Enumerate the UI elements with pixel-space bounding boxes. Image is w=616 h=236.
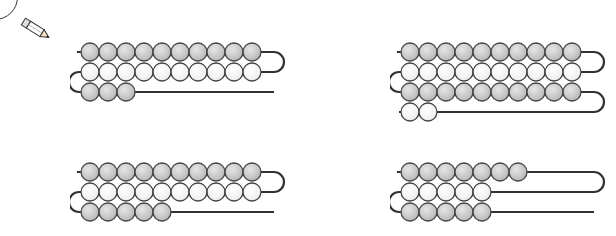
dark-bead xyxy=(509,43,527,61)
dark-bead xyxy=(455,43,473,61)
dark-bead xyxy=(473,163,491,181)
light-bead xyxy=(401,103,419,121)
light-bead xyxy=(437,63,455,81)
light-bead xyxy=(527,63,545,81)
light-bead xyxy=(189,63,207,81)
light-bead xyxy=(153,183,171,201)
exercise-number-badge xyxy=(0,0,18,20)
light-bead xyxy=(401,63,419,81)
dark-bead xyxy=(437,43,455,61)
light-bead xyxy=(473,63,491,81)
dark-bead xyxy=(135,43,153,61)
light-bead xyxy=(243,63,261,81)
dark-bead xyxy=(243,163,261,181)
dark-bead xyxy=(99,83,117,101)
bead-string-group-2 xyxy=(390,38,616,127)
dark-bead xyxy=(563,43,581,61)
dark-bead xyxy=(437,203,455,221)
dark-bead xyxy=(455,83,473,101)
dark-bead xyxy=(153,43,171,61)
dark-bead xyxy=(455,203,473,221)
light-bead xyxy=(491,63,509,81)
light-bead xyxy=(225,63,243,81)
light-bead xyxy=(207,63,225,81)
dark-bead xyxy=(437,83,455,101)
bead-string-group-4 xyxy=(390,158,616,227)
light-bead xyxy=(419,103,437,121)
light-bead xyxy=(117,183,135,201)
light-bead xyxy=(563,63,581,81)
light-bead xyxy=(99,63,117,81)
dark-bead xyxy=(225,43,243,61)
light-bead xyxy=(81,183,99,201)
dark-bead xyxy=(455,163,473,181)
dark-bead xyxy=(81,203,99,221)
dark-bead xyxy=(401,43,419,61)
dark-bead xyxy=(117,43,135,61)
dark-bead xyxy=(99,43,117,61)
dark-bead xyxy=(81,43,99,61)
light-bead xyxy=(135,63,153,81)
light-bead xyxy=(437,183,455,201)
bead-string-group-1 xyxy=(70,38,296,107)
dark-bead xyxy=(171,43,189,61)
light-bead xyxy=(455,183,473,201)
dark-bead xyxy=(509,83,527,101)
dark-bead xyxy=(473,83,491,101)
dark-bead xyxy=(491,163,509,181)
dark-bead xyxy=(135,203,153,221)
dark-bead xyxy=(473,203,491,221)
light-bead xyxy=(189,183,207,201)
dark-bead xyxy=(401,163,419,181)
light-bead xyxy=(171,183,189,201)
dark-bead xyxy=(153,203,171,221)
dark-bead xyxy=(545,43,563,61)
dark-bead xyxy=(99,203,117,221)
light-bead xyxy=(473,183,491,201)
dark-bead xyxy=(491,83,509,101)
dark-bead xyxy=(153,163,171,181)
dark-bead xyxy=(419,83,437,101)
dark-bead xyxy=(171,163,189,181)
light-bead xyxy=(419,63,437,81)
light-bead xyxy=(153,63,171,81)
light-bead xyxy=(455,63,473,81)
dark-bead xyxy=(117,203,135,221)
bead-string-group-3 xyxy=(70,158,296,227)
light-bead xyxy=(243,183,261,201)
light-bead xyxy=(117,63,135,81)
dark-bead xyxy=(563,83,581,101)
light-bead xyxy=(171,63,189,81)
dark-bead xyxy=(527,83,545,101)
light-bead xyxy=(419,183,437,201)
dark-bead xyxy=(117,83,135,101)
dark-bead xyxy=(135,163,153,181)
dark-bead xyxy=(189,43,207,61)
dark-bead xyxy=(243,43,261,61)
pencil-icon xyxy=(17,16,57,44)
light-bead xyxy=(401,183,419,201)
dark-bead xyxy=(401,83,419,101)
light-bead xyxy=(81,63,99,81)
dark-bead xyxy=(419,43,437,61)
light-bead xyxy=(545,63,563,81)
light-bead xyxy=(207,183,225,201)
dark-bead xyxy=(437,163,455,181)
light-bead xyxy=(99,183,117,201)
light-bead xyxy=(135,183,153,201)
dark-bead xyxy=(207,163,225,181)
dark-bead xyxy=(189,163,207,181)
dark-bead xyxy=(99,163,117,181)
dark-bead xyxy=(225,163,243,181)
dark-bead xyxy=(491,43,509,61)
dark-bead xyxy=(419,163,437,181)
dark-bead xyxy=(419,203,437,221)
light-bead xyxy=(509,63,527,81)
dark-bead xyxy=(81,163,99,181)
dark-bead xyxy=(545,83,563,101)
dark-bead xyxy=(117,163,135,181)
dark-bead xyxy=(527,43,545,61)
dark-bead xyxy=(81,83,99,101)
dark-bead xyxy=(401,203,419,221)
light-bead xyxy=(225,183,243,201)
